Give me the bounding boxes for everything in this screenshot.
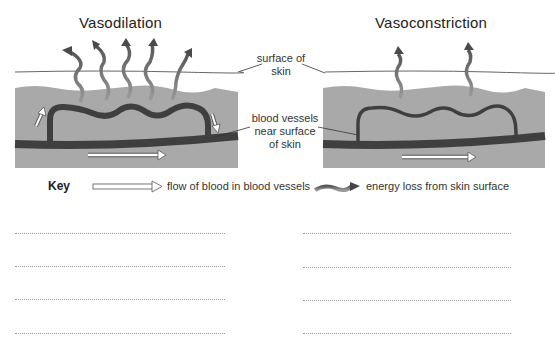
key-energy-label: energy loss from skin surface — [366, 180, 509, 192]
vasoconstriction-panel — [323, 42, 555, 168]
surface-of-skin-label: surface of skin — [252, 52, 310, 78]
answer-line-left-1[interactable] — [15, 233, 225, 234]
answer-line-left-4[interactable] — [15, 333, 225, 334]
answer-line-right-1[interactable] — [303, 233, 511, 234]
blood-vessels-label: blood vessels near surface of skin — [248, 112, 322, 151]
answer-line-left-2[interactable] — [15, 266, 225, 267]
key-flow-arrow-icon — [93, 181, 162, 192]
answer-line-right-4[interactable] — [303, 333, 511, 334]
answer-line-right-2[interactable] — [303, 267, 511, 268]
answer-line-left-3[interactable] — [15, 299, 225, 300]
vasodilation-panel — [15, 38, 244, 168]
key-title: Key — [48, 179, 70, 193]
key-flow-label: flow of blood in blood vessels — [167, 180, 310, 192]
key-energy-arrow-icon — [315, 182, 360, 191]
answer-line-right-3[interactable] — [303, 300, 511, 301]
